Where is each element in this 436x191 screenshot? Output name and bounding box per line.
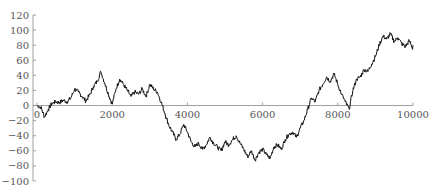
y-tick-label: 40 xyxy=(16,70,29,81)
x-tick-label: 10000 xyxy=(397,109,429,120)
y-tick-label: 120 xyxy=(10,10,29,21)
x-tick-label: 0 xyxy=(34,109,40,120)
y-tick-label: 0 xyxy=(23,100,29,111)
x-tick-label: 4000 xyxy=(175,109,200,120)
y-tick-label: −60 xyxy=(8,145,29,156)
x-axis: 0200040006000800010000 xyxy=(33,103,429,120)
y-tick-label: −20 xyxy=(8,115,29,126)
y-tick-label: −80 xyxy=(8,160,29,171)
y-tick-label: 80 xyxy=(16,40,29,51)
y-axis: 120100806040200−20−40−60−80−100 xyxy=(2,10,36,187)
y-tick-label: 60 xyxy=(16,55,29,66)
y-tick-label: −40 xyxy=(8,130,29,141)
x-tick-label: 2000 xyxy=(99,109,124,120)
data-series-line xyxy=(37,33,413,162)
random-walk-line-chart: 120100806040200−20−40−60−80−100 02000400… xyxy=(0,0,436,191)
y-tick-label: −100 xyxy=(2,176,29,187)
y-tick-label: 20 xyxy=(16,85,29,96)
y-tick-label: 100 xyxy=(10,25,29,36)
x-tick-label: 8000 xyxy=(325,109,350,120)
x-tick-label: 6000 xyxy=(250,109,275,120)
